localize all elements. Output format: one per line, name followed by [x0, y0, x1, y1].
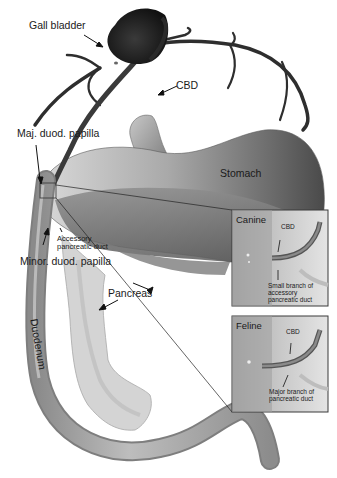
hepatic-ducts [35, 28, 308, 130]
label-cbd: CBD [176, 80, 198, 91]
canine-inset-title: Canine [236, 215, 266, 225]
anatomy-illustration [0, 0, 337, 478]
feline-inset-cbd: CBD [286, 329, 300, 336]
label-pancreas: Pancreas [108, 288, 152, 299]
canine-inset-annotation: Small branch of accessory pancreatic duc… [268, 283, 313, 303]
gall-bladder [107, 8, 168, 64]
label-maj-duod-papilla: Maj. duod. papilla [17, 128, 99, 139]
feline-inset-title: Feline [236, 321, 262, 331]
label-gall-bladder: Gall bladder [29, 20, 86, 31]
canine-inset-cbd: CBD [281, 224, 295, 231]
feline-inset-annotation: Major branch of pancreatic duct [269, 389, 314, 403]
label-accessory-pancreatic-duct: Accessory pancreatic duct [57, 235, 108, 251]
label-stomach: Stomach [220, 168, 261, 179]
label-minor-duod-papilla: Minor. duod. papilla [20, 256, 111, 267]
